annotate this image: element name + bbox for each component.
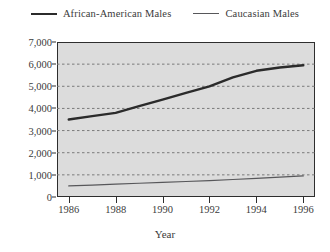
legend-line-swatch-icon	[193, 13, 219, 14]
y-axis-tick-mark	[52, 108, 56, 109]
y-axis-tick-mark	[52, 197, 56, 198]
series-line	[69, 176, 304, 186]
y-axis-tick-mark	[52, 152, 56, 153]
y-axis-tick-mark	[52, 174, 56, 175]
y-axis-tick-label: 5,000	[28, 81, 52, 92]
y-axis-tick-mark	[52, 64, 56, 65]
y-axis-tick-label: 2,000	[28, 147, 52, 158]
legend-line-swatch-icon	[31, 13, 57, 15]
y-axis-tick-label: 3,000	[28, 125, 52, 136]
chart-legend: African-American Males Caucasian Males	[0, 8, 330, 19]
y-axis-tick-label: 7,000	[28, 37, 52, 48]
x-axis-title: Year	[0, 228, 330, 240]
y-axis: 01,0002,0003,0004,0005,0006,0007,000	[0, 42, 52, 197]
y-axis-tick-label: 6,000	[28, 59, 52, 70]
x-axis-ticks	[57, 197, 315, 203]
y-axis-tick-mark	[52, 130, 56, 131]
x-axis-tick-mark	[116, 197, 117, 203]
x-axis-tick-label: 1990	[152, 204, 173, 215]
x-axis-labels: 198619881990199219941996	[57, 204, 315, 220]
legend-item-label: Caucasian Males	[225, 8, 299, 19]
y-axis-tick-label: 1,000	[28, 169, 52, 180]
legend-item-african-american-males: African-American Males	[31, 8, 172, 19]
line-chart: African-American Males Caucasian Males 0…	[0, 0, 330, 252]
x-axis-tick-mark	[256, 197, 257, 203]
series-line	[69, 65, 304, 119]
x-axis-tick-label: 1994	[246, 204, 267, 215]
legend-item-caucasian-males: Caucasian Males	[193, 8, 299, 19]
y-axis-tick-mark	[52, 42, 56, 43]
x-axis-tick-mark	[209, 197, 210, 203]
legend-item-label: African-American Males	[63, 8, 172, 19]
x-axis-tick-label: 1988	[105, 204, 126, 215]
x-axis-tick-mark	[163, 197, 164, 203]
x-axis-tick-label: 1996	[293, 204, 314, 215]
plot-canvas	[57, 42, 315, 197]
x-axis-tick-label: 1986	[58, 204, 79, 215]
y-axis-tick-mark	[52, 86, 56, 87]
y-axis-tick-label: 4,000	[28, 103, 52, 114]
plot-area-wrapper	[57, 42, 315, 197]
x-axis-tick-label: 1992	[199, 204, 220, 215]
x-axis-tick-mark	[303, 197, 304, 203]
x-axis-tick-mark	[69, 197, 70, 203]
